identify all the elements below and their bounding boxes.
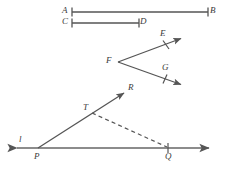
ray-fe-line: [118, 39, 181, 63]
point-label-r: R: [128, 83, 134, 92]
dashed-segment-tq-line: [92, 113, 167, 147]
point-label-q: Q: [165, 152, 172, 161]
point-label-b: B: [210, 6, 216, 15]
figure-canvas: [0, 0, 226, 174]
point-label-p: P: [34, 152, 40, 161]
point-label-a: A: [62, 6, 68, 15]
geometry-figure: A B C D E F G R T P Q l: [0, 0, 226, 174]
point-label-e: E: [160, 29, 166, 38]
point-label-c: C: [62, 17, 68, 26]
point-label-t: T: [83, 103, 88, 112]
ray-pr: [38, 93, 124, 148]
line-label-l: l: [19, 135, 22, 144]
point-label-g: G: [162, 63, 169, 72]
point-label-d: D: [140, 17, 147, 26]
segment-cd: [72, 19, 139, 28]
ray-fe: [118, 39, 181, 63]
dashed-segment-tq: [92, 113, 167, 147]
point-label-f: F: [106, 56, 112, 65]
ray-pr-line: [38, 93, 124, 148]
